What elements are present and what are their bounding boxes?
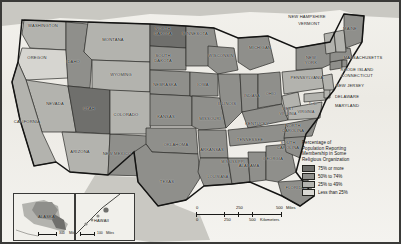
map-legend: Percentage of Population Reporting Membe… (302, 140, 397, 197)
state-wisconsin (208, 46, 238, 74)
hawaii-scale-tick-left (80, 232, 81, 236)
state-tennessee (228, 124, 290, 146)
legend-swatch-icon-25 (302, 181, 315, 188)
state-oregon (18, 48, 68, 80)
state-louisiana (198, 158, 232, 186)
state-mississippi (228, 158, 250, 184)
scale-tick-d (252, 212, 253, 217)
legend-item-75-or-more: 75% or more (302, 165, 397, 172)
hawaii-scale-line (80, 234, 94, 235)
scale-km-tick-0: 0 (196, 217, 198, 222)
state-arizona (62, 132, 110, 175)
state-nebraska (150, 70, 190, 96)
legend-label-50: 50% to 74% (318, 174, 342, 179)
state-arkansas (198, 130, 228, 158)
scale-miles-labels: 0 250 500 Miles (196, 205, 311, 211)
alaska-scale-line (38, 234, 56, 235)
hawaii-chain-line (76, 194, 120, 234)
state-oklahoma (146, 128, 198, 154)
scale-miles-tick-500: 500 (276, 205, 283, 210)
scale-km-unit: Kilometers (260, 217, 279, 222)
legend-swatch-icon-50 (302, 173, 315, 180)
scale-km-tick-250: 250 (224, 217, 231, 222)
legend-item-50-to-74: 50% to 74% (302, 173, 397, 180)
hawaii-scale-tick-right (94, 232, 95, 236)
state-michigan (238, 36, 274, 70)
legend-item-25-to-49: 25% to 49% (302, 181, 397, 188)
state-north-carolina (284, 118, 318, 138)
alaska-scale-value: 300 (59, 231, 65, 235)
state-rhode-island (342, 60, 347, 67)
state-new-jersey (322, 74, 334, 90)
aleutian-islands (16, 230, 38, 236)
scale-miles-tick-0: 0 (196, 205, 198, 210)
state-iowa (190, 72, 218, 96)
hawaii-scale-value: 100 (97, 231, 103, 235)
legend-swatch-icon-75 (302, 165, 315, 172)
scale-kilometers-labels: 0 250 500 Kilometers (196, 217, 311, 223)
state-north-dakota (150, 24, 186, 48)
state-colorado (110, 90, 152, 134)
scale-miles-tick-250: 250 (236, 205, 243, 210)
state-washington (22, 20, 66, 50)
state-wyoming (92, 60, 150, 92)
state-pennsylvania (282, 68, 324, 94)
hawaii-scale-bar: 100 Miles (80, 230, 126, 240)
legend-title: Percentage of Population Reporting Membe… (302, 140, 397, 162)
inset-alaska: ALASKA 300 Miles (13, 193, 75, 241)
alaska-scale-bar: 300 Miles (38, 230, 72, 240)
state-ohio (258, 72, 282, 108)
inset-label-hawaii: HAWAII (94, 218, 109, 223)
state-kansas (150, 94, 192, 126)
hawaii-island-big-island (103, 207, 108, 212)
scale-tick-e (281, 212, 282, 217)
hawaii-island-kauai (84, 222, 87, 225)
inset-label-alaska: ALASKA (38, 214, 55, 219)
legend-swatch-icon-0 (302, 189, 315, 196)
hawaii-scale-unit: Miles (106, 231, 114, 235)
state-indiana (240, 74, 258, 112)
scale-miles-unit: Miles (286, 205, 296, 210)
inset-hawaii: HAWAII 100 Miles (75, 193, 135, 241)
scale-tick-c (238, 212, 239, 217)
state-montana (84, 22, 150, 62)
alaska-scale-tick-right (56, 232, 57, 236)
scale-km-tick-500: 500 (249, 217, 256, 222)
legend-label-25: 25% to 49% (318, 182, 342, 187)
map-screenshot: WASHINGTON OREGON IDAHO MONTANA WYOMING … (0, 0, 401, 244)
legend-label-75: 75% or more (318, 166, 344, 171)
legend-item-less-than-25: Less than 25% (302, 189, 397, 196)
state-south-dakota (150, 46, 186, 70)
scale-tick-a (196, 212, 197, 217)
legend-title-line-4: Religious Organization (302, 157, 397, 163)
scale-bar-graphic (196, 212, 311, 217)
state-maryland (304, 92, 326, 102)
hawaii-island-oahu (91, 219, 94, 222)
state-alabama (248, 152, 266, 182)
alaska-scale-tick-left (38, 232, 39, 236)
legend-label-0: Less than 25% (318, 190, 348, 195)
scale-bars: 0 250 500 Miles 0 250 500 Kilometers (196, 205, 311, 223)
scale-tick-b (224, 212, 225, 217)
